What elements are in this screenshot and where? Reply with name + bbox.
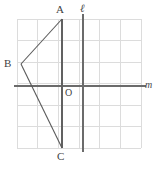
grid-lines bbox=[17, 19, 141, 148]
geometry-figure: A B C O ℓ m bbox=[0, 0, 166, 171]
origin-label-o: O bbox=[65, 88, 72, 98]
vertex-label-c: C bbox=[57, 151, 64, 162]
line-label-m: m bbox=[145, 80, 152, 90]
segment-ab bbox=[21, 19, 62, 64]
line-label-l: ℓ bbox=[80, 3, 85, 14]
segment-bc bbox=[21, 64, 62, 148]
geometry-canvas bbox=[0, 0, 166, 171]
vertex-label-b: B bbox=[4, 58, 11, 69]
vertex-label-a: A bbox=[56, 4, 64, 15]
